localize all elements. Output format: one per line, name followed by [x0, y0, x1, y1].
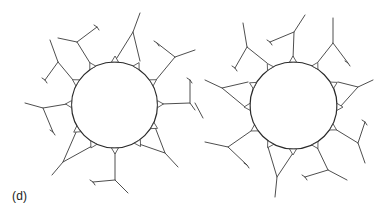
anchor-triangle	[66, 101, 72, 108]
branch-line	[25, 103, 67, 108]
fork-end	[232, 66, 237, 71]
branch-line	[235, 47, 247, 68]
branch-line	[93, 180, 115, 182]
branch-line	[45, 62, 58, 80]
branch-line	[115, 152, 128, 193]
branch-line	[228, 147, 247, 165]
branch-line	[139, 144, 165, 153]
anchor-triangle	[290, 56, 297, 62]
branch-line	[162, 103, 195, 110]
branch-line	[157, 43, 175, 57]
right-structure	[195, 15, 373, 197]
branch-line	[205, 131, 251, 147]
anchor-triangle	[244, 103, 250, 110]
branch-line	[115, 13, 140, 61]
branch-line	[63, 146, 92, 162]
branch-line	[305, 170, 328, 177]
branch-line	[318, 18, 333, 62]
core-circle	[72, 62, 158, 148]
branch-line	[50, 40, 73, 80]
branch-line	[77, 27, 97, 42]
branch-line	[195, 103, 203, 118]
branch-line	[358, 122, 365, 143]
anchor-triangle	[290, 149, 297, 155]
branch-line	[338, 80, 373, 87]
fork-end	[187, 78, 192, 83]
core-circle	[250, 62, 337, 149]
branch-line	[205, 80, 248, 88]
anchor-triangle	[157, 101, 163, 108]
branch-line	[52, 130, 77, 175]
left-structure	[25, 13, 195, 193]
branch-line	[43, 108, 53, 132]
branch-line	[293, 15, 305, 59]
branch-line	[156, 50, 195, 80]
fork-end	[302, 175, 307, 180]
fork-end	[244, 163, 249, 168]
fork-end	[90, 180, 95, 185]
branch-line	[270, 32, 294, 42]
fork-end	[267, 40, 272, 45]
molecular-structure-diagram	[0, 0, 389, 214]
branch-line	[340, 87, 358, 107]
branch-line	[58, 38, 90, 63]
branch-line	[133, 32, 140, 61]
branch-line	[222, 88, 245, 107]
anchor-triangle	[111, 148, 118, 154]
branch-line	[333, 43, 348, 63]
branch-line	[243, 23, 267, 63]
branch-line	[268, 147, 277, 197]
branch-line	[317, 147, 347, 180]
branch-line	[277, 153, 293, 177]
branch-line	[155, 127, 178, 167]
panel-label: (d)	[12, 189, 27, 203]
